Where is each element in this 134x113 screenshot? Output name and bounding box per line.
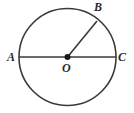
circle-diagram-figure: A B C O bbox=[0, 0, 134, 113]
point-label-a: A bbox=[7, 51, 15, 63]
geometry-canvas bbox=[0, 0, 134, 113]
center-point-dot bbox=[65, 54, 71, 60]
point-label-b: B bbox=[94, 1, 102, 13]
point-label-c: C bbox=[118, 51, 126, 63]
point-label-o: O bbox=[62, 62, 71, 74]
radius-segment-ob bbox=[68, 21, 98, 57]
